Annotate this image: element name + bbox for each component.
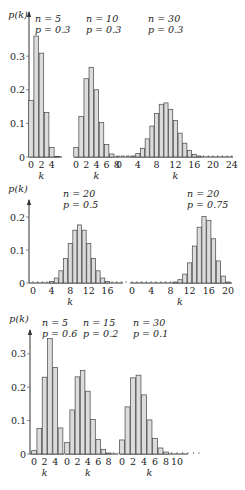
bar-k-12 [188, 263, 192, 283]
bar-k-3 [80, 371, 85, 455]
bar-k-8 [155, 113, 159, 157]
bar-k-9 [73, 230, 77, 283]
bar-k-4 [53, 367, 58, 454]
bar-k-7 [101, 449, 106, 454]
y-tick-label: 0.1 [10, 245, 25, 256]
arrow-up-icon [28, 329, 32, 335]
panel-p-label: p = 0.3 [86, 24, 121, 35]
bar-k-4 [86, 391, 91, 454]
binomial-chart-figure: p(k)00.10.20.3024kn = 5p = 0.302468kn = … [0, 0, 245, 490]
bar-k-20 [226, 282, 230, 283]
bar-k-5 [147, 420, 152, 454]
x-tick-label: 8 [106, 456, 112, 467]
x-tick-label: 2 [83, 159, 89, 170]
panel-n-label: n = 15 [83, 317, 115, 328]
x-tick-label: 4 [49, 285, 55, 296]
x-tick-label: 8 [163, 456, 169, 467]
bar-k-2 [131, 378, 136, 454]
bar-k-0 [120, 440, 125, 454]
bar-k-3 [136, 375, 141, 454]
bar-k-5 [55, 156, 60, 157]
bar-k-5 [140, 148, 144, 157]
bar-k-0 [29, 101, 34, 157]
bar-k-9 [173, 282, 177, 283]
y-tick-label: 0.2 [10, 212, 25, 223]
bar-k-1 [70, 410, 75, 454]
x-tick-label: 12 [169, 159, 181, 170]
bar-k-0 [32, 451, 37, 454]
bar-k-14 [197, 227, 201, 283]
bar-k-2 [75, 377, 80, 454]
bar-k-10 [77, 225, 81, 283]
bar-k-8 [106, 453, 111, 454]
x-tick-label: 2 [38, 159, 44, 170]
x-tick-label: 4 [135, 159, 141, 170]
x-tick-label: 0 [116, 159, 122, 170]
x-tick-label: 6 [95, 456, 101, 467]
x-tick-label: 0 [64, 456, 70, 467]
histogram-panel: 024kn = 5p = 0.3 [28, 13, 70, 181]
y-tick-label: 0.2 [11, 382, 26, 393]
x-axis-label: k [39, 170, 45, 181]
bar-k-15 [202, 216, 206, 283]
histogram-panel: 04812162024kn = 30p = 0.3 [116, 13, 238, 181]
x-tick-label: 20 [222, 285, 234, 296]
histogram-panel: 02468kn = 15p = 0.2 [64, 317, 119, 478]
x-tick-label: 0 [73, 159, 79, 170]
x-tick-label: 4 [93, 159, 99, 170]
panel-p-label: p = 0.75 [187, 199, 228, 210]
x-tick-label: 4 [148, 285, 154, 296]
bar-k-7 [109, 154, 114, 157]
y-tick-label: 0 [20, 449, 26, 460]
x-tick-label: 0 [30, 285, 36, 296]
bar-k-15 [187, 150, 191, 157]
x-axis-label: k [85, 467, 91, 478]
bar-k-14 [183, 143, 187, 157]
panel-n-label: n = 20 [187, 188, 219, 199]
bar-k-1 [125, 407, 130, 454]
x-tick-label: 24 [226, 159, 238, 170]
bar-k-16 [192, 154, 196, 157]
bar-k-5 [54, 278, 58, 283]
bar-k-8 [68, 243, 72, 283]
bar-k-5 [91, 420, 96, 454]
bar-k-4 [50, 281, 54, 283]
panel-p-label: p = 0.1 [133, 328, 168, 339]
bar-k-6 [104, 145, 109, 157]
bar-k-9 [159, 104, 163, 157]
y-axis-label: p(k) [9, 313, 29, 324]
x-tick-label: 4 [49, 159, 55, 170]
x-tick-label: 2 [42, 456, 48, 467]
x-tick-label: 0 [31, 456, 37, 467]
panel-n-label: n = 30 [133, 317, 165, 328]
bar-k-3 [48, 338, 53, 454]
y-tick-label: 0.3 [10, 51, 25, 62]
bar-k-1 [79, 116, 84, 157]
bar-k-4 [50, 148, 55, 157]
panel-p-label: p = 0.2 [83, 328, 118, 339]
bar-k-4 [136, 154, 140, 157]
bar-k-12 [173, 120, 177, 157]
bar-k-10 [164, 103, 168, 157]
bar-k-2 [84, 79, 89, 157]
x-tick-label: 4 [52, 456, 58, 467]
bar-k-6 [145, 139, 149, 157]
bar-k-0 [65, 442, 70, 454]
chart-row-1: p(k)00.10.20.3024kn = 5p = 0.302468kn = … [8, 9, 237, 181]
bar-k-11 [82, 230, 86, 283]
bar-k-16 [207, 220, 211, 283]
x-tick-label: 8 [167, 285, 173, 296]
panel-p-label: p = 0.5 [63, 199, 98, 210]
y-tick-label: 0 [19, 152, 25, 163]
bar-k-2 [39, 53, 44, 157]
bar-k-15 [101, 278, 105, 283]
bar-k-4 [142, 395, 147, 454]
panel-n-label: n = 5 [35, 13, 61, 24]
x-axis-label: k [177, 296, 183, 307]
bar-k-16 [105, 281, 109, 283]
histogram-panel: 0246810kn = 30p = 0.1 [119, 317, 199, 478]
bar-k-0 [74, 148, 79, 157]
panel-p-label: p = 0.3 [148, 24, 183, 35]
bar-k-6 [153, 438, 158, 454]
bar-k-13 [192, 246, 196, 283]
